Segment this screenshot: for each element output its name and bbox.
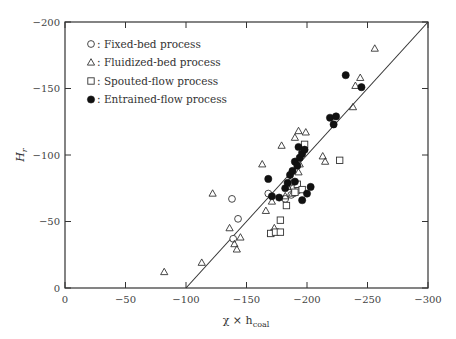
data-point: [230, 235, 237, 242]
data-point: [276, 194, 283, 201]
legend-marker-circle-open-icon: [88, 41, 95, 48]
y-axis-title: Hr: [14, 147, 29, 163]
data-point: [295, 143, 302, 150]
data-point: [277, 229, 283, 235]
data-point: [358, 84, 365, 91]
y-tick-label: −50: [39, 216, 60, 227]
data-point: [161, 268, 168, 274]
data-point: [278, 142, 285, 148]
y-tick-label: −100: [33, 150, 60, 161]
data-point: [302, 129, 309, 135]
legend-label: : Fixed-bed process: [97, 38, 201, 50]
y-tick-label: −200: [33, 17, 60, 28]
data-point: [229, 195, 236, 202]
data-point: [336, 157, 342, 163]
x-tick-label: −150: [233, 294, 260, 305]
y-tick-label: −150: [33, 83, 60, 94]
data-point: [262, 207, 269, 213]
data-point: [330, 121, 337, 128]
data-point: [237, 234, 244, 240]
data-point: [303, 190, 310, 197]
data-point: [291, 178, 298, 185]
data-point: [342, 72, 349, 79]
x-axis-title: χ × hcoal: [223, 314, 270, 329]
legend-marker-square-open-icon: [88, 78, 94, 84]
data-point: [299, 197, 306, 204]
legend-label: : Fluidized-bed process: [97, 56, 221, 68]
data-point: [283, 202, 289, 208]
legend-marker-triangle-open-icon: [87, 59, 94, 65]
data-point: [292, 189, 298, 195]
fit-line: [186, 22, 428, 288]
data-point: [226, 224, 233, 230]
data-point: [235, 215, 242, 222]
data-point: [259, 161, 266, 167]
data-point: [284, 179, 291, 186]
y-tick-label: 0: [54, 283, 60, 294]
scatter-chart: 0−50−100−150−200−250−300 0−50−100−150−20…: [0, 0, 456, 339]
data-point: [268, 193, 275, 200]
x-tick-label: −250: [354, 294, 381, 305]
series-entrained-flow-process: [265, 72, 365, 204]
data-point: [198, 259, 205, 265]
regression-line: [186, 22, 428, 288]
data-point: [371, 45, 378, 51]
data-point: [357, 74, 364, 80]
data-point: [277, 217, 283, 223]
x-tick-label: −300: [414, 294, 441, 305]
x-tick-label: −200: [293, 294, 320, 305]
data-point: [307, 183, 314, 190]
y-axis: 0−50−100−150−200: [33, 17, 428, 294]
data-point: [294, 162, 301, 169]
x-tick-label: −50: [115, 294, 136, 305]
legend-marker-circle-filled-icon: [87, 96, 94, 103]
x-tick-label: 0: [62, 294, 68, 305]
data-point: [295, 127, 302, 133]
data-point: [291, 134, 298, 140]
legend-label: : Entrained-flow process: [97, 93, 227, 105]
legend-label: : Spouted-flow process: [97, 75, 218, 87]
x-tick-label: −100: [172, 294, 199, 305]
data-point: [265, 175, 272, 182]
data-point: [332, 113, 339, 120]
data-point: [209, 190, 216, 196]
legend: : Fixed-bed process: Fluidized-bed proce…: [87, 38, 227, 106]
